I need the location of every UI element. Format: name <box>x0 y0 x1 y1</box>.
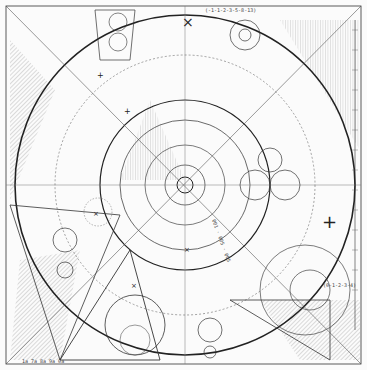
geometric-artwork: × + + + × × × (-1-1-2-3-5-8-13) (0-1-2-3… <box>0 0 367 370</box>
svg-text:×: × <box>93 210 99 218</box>
svg-text:×: × <box>184 246 190 254</box>
hatch-left-bottom <box>10 250 80 360</box>
hatch-left-top <box>10 40 55 200</box>
svg-text:+: + <box>124 107 131 116</box>
svg-text:+: + <box>97 71 104 80</box>
bottom-left-label: 1a 7a 8a 9a 0a <box>22 358 64 364</box>
svg-text:+: + <box>322 211 337 232</box>
top-sequence-label: (-1-1-2-3-5-8-13) <box>205 7 256 13</box>
artwork-canvas: × + + + × × × (-1-1-2-3-5-8-13) (0-1-2-3… <box>0 0 367 370</box>
diagonal-label: 001 · 005 · 005 <box>211 218 232 262</box>
hatch-right-top <box>280 20 360 150</box>
right-sequence-label: (0-1-2-3-4) <box>323 282 356 288</box>
svg-text:×: × <box>182 14 194 30</box>
svg-text:×: × <box>131 282 137 290</box>
